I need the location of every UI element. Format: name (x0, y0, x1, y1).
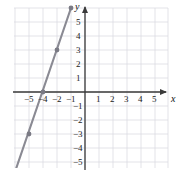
x-tick-label-4: 4 (138, 95, 143, 104)
y-tick-label-neg5: −5 (73, 158, 83, 167)
y-tick-label-neg3: −3 (73, 130, 83, 139)
axes (13, 7, 166, 170)
y-tick-label-neg1: −1 (73, 102, 83, 111)
y-axis-name: y (75, 2, 79, 12)
point-marker (69, 6, 74, 11)
y-tick-label-neg2: −2 (73, 116, 83, 125)
point-marker (55, 48, 60, 53)
y-tick-label-1: 1 (76, 74, 81, 83)
x-tick-label-5: 5 (152, 95, 157, 104)
grid-lines (14, 8, 168, 168)
x-axis-name: x (171, 94, 175, 104)
plot-canvas (0, 0, 182, 174)
y-tick-label-3: 3 (76, 46, 81, 55)
coordinate-plane-figure: −5 −4 −2 −1 1 2 3 4 5 5 4 3 2 1 −1 −2 −3… (0, 0, 182, 174)
x-tick-label-2: 2 (110, 95, 115, 104)
point-marker (27, 132, 32, 137)
y-tick-label-5: 5 (76, 18, 81, 27)
y-tick-label-neg4: −4 (73, 144, 83, 153)
y-tick-label-4: 4 (76, 32, 81, 41)
x-tick-label-neg4: −4 (38, 95, 48, 104)
x-tick-label-3: 3 (124, 95, 129, 104)
x-tick-label-neg5: −5 (24, 95, 34, 104)
y-tick-label-2: 2 (76, 60, 81, 69)
x-tick-label-1: 1 (96, 95, 101, 104)
x-tick-label-neg2: −2 (52, 95, 62, 104)
